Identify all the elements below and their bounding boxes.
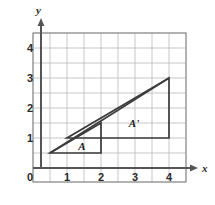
x-tick-label-1: 1: [64, 171, 70, 183]
x-tick-label-2: 2: [98, 171, 104, 183]
origin-tick-label: 0: [27, 171, 33, 183]
y-tick-label-3: 3: [27, 72, 33, 84]
y-tick-label-2: 2: [27, 102, 33, 114]
triangle-a-label: A: [77, 140, 85, 152]
triangle-a-prime-label: A': [128, 117, 139, 129]
x-axis-label: x: [201, 162, 208, 174]
y-tick-label-1: 1: [27, 132, 33, 144]
y-tick-label-4: 4: [27, 42, 34, 54]
plot-svg: y x 0 1 2 3 4 1 2 3 4 A A': [0, 0, 215, 205]
x-axis: [33, 165, 198, 172]
x-tick-label-4: 4: [166, 171, 173, 183]
coordinate-plane-figure: y x 0 1 2 3 4 1 2 3 4 A A': [0, 0, 215, 205]
x-tick-label-3: 3: [132, 171, 138, 183]
grid-lines: [33, 33, 186, 182]
grid-border: [33, 33, 186, 182]
y-axis-label: y: [34, 4, 41, 16]
